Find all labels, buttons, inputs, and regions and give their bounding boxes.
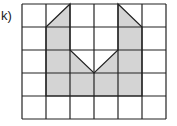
grid-lines [22,4,166,119]
grid-diagram [0,0,177,126]
